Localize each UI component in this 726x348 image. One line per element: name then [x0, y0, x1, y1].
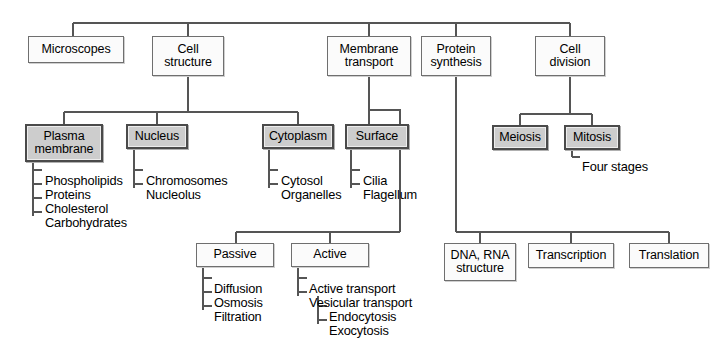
node-label-dna-rna-structure: DNA, RNA structure — [451, 249, 510, 276]
node-active[interactable]: Active — [291, 243, 369, 267]
node-translation[interactable]: Translation — [629, 243, 709, 268]
leaf-carbohydrates: Carbohydrates — [45, 215, 127, 230]
node-label-nucleus: Nucleus — [128, 126, 186, 147]
leaf-diffusion: Diffusion — [214, 281, 262, 296]
node-cell-division[interactable]: Cell division — [535, 36, 605, 76]
leaf-chromosomes: Chromosomes — [146, 173, 228, 188]
leaf-vesicular-transport: Vesicular transport — [309, 295, 412, 310]
leaf-filtration: Filtration — [214, 309, 262, 324]
leaf-cilia: Cilia — [363, 173, 387, 188]
leaf-nucleolus: Nucleolus — [146, 187, 201, 202]
node-label-active: Active — [313, 248, 346, 262]
leaf-exocytosis: Exocytosis — [329, 323, 389, 338]
node-label-passive: Passive — [213, 248, 256, 262]
node-membrane-transport[interactable]: Membrane transport — [327, 36, 411, 76]
node-label-mitosis: Mitosis — [566, 127, 618, 148]
node-protein-synthesis[interactable]: Protein synthesis — [421, 36, 491, 76]
node-cytoplasm[interactable]: Cytoplasm — [262, 124, 334, 149]
node-surface[interactable]: Surface — [345, 124, 409, 149]
node-label-translation: Translation — [639, 249, 699, 263]
node-plasma-membrane[interactable]: Plasma membrane — [25, 124, 103, 162]
node-microscopes[interactable]: Microscopes — [28, 36, 124, 63]
node-label-surface: Surface — [347, 126, 407, 147]
node-label-microscopes: Microscopes — [41, 43, 110, 57]
node-label-transcription: Transcription — [536, 249, 606, 263]
node-label-protein-synthesis: Protein synthesis — [430, 43, 481, 70]
leaf-proteins: Proteins — [45, 187, 91, 202]
node-label-cell-division: Cell division — [550, 43, 591, 70]
node-dna-rna-structure[interactable]: DNA, RNA structure — [444, 243, 516, 281]
node-meiosis[interactable]: Meiosis — [492, 125, 548, 150]
leaf-phospholipids: Phospholipids — [45, 173, 123, 188]
leaf-active-transport: Active transport — [309, 281, 396, 296]
connector-membrane-to-surface — [369, 76, 400, 124]
node-mitosis[interactable]: Mitosis — [564, 125, 620, 150]
node-label-membrane-transport: Membrane transport — [340, 43, 399, 70]
node-label-cytoplasm: Cytoplasm — [264, 126, 332, 147]
leaf-endocytosis: Endocytosis — [329, 309, 396, 324]
leaf-organelles: Organelles — [281, 187, 341, 202]
leaf-flagellum: Flagellum — [363, 187, 417, 202]
node-transcription[interactable]: Transcription — [528, 243, 614, 268]
node-label-plasma-membrane: Plasma membrane — [27, 126, 101, 160]
node-nucleus[interactable]: Nucleus — [126, 124, 188, 149]
leaf-four-stages: Four stages — [582, 159, 648, 174]
leaf-osmosis: Osmosis — [214, 295, 263, 310]
node-cell-structure[interactable]: Cell structure — [152, 36, 224, 76]
leaf-cholesterol: Cholesterol — [45, 201, 108, 216]
leaf-cytosol: Cytosol — [281, 173, 323, 188]
node-passive[interactable]: Passive — [196, 243, 274, 267]
node-label-meiosis: Meiosis — [494, 127, 546, 148]
concept-map-diagram: MicroscopesCell structureMembrane transp… — [0, 0, 726, 348]
node-label-cell-structure: Cell structure — [164, 43, 212, 70]
